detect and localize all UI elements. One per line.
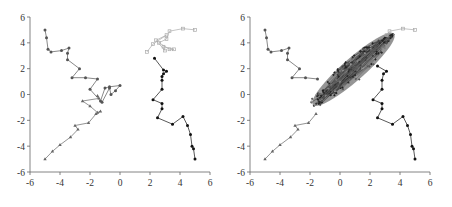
data-point xyxy=(376,116,379,119)
data-point xyxy=(267,48,270,51)
data-point xyxy=(161,107,164,110)
y-tick-label: 6 xyxy=(20,13,25,23)
y-tick-label: 4 xyxy=(240,38,245,48)
x-tick-label: 6 xyxy=(428,178,433,188)
x-tick-label: -2 xyxy=(306,178,314,188)
data-point xyxy=(162,72,165,75)
data-point xyxy=(119,84,122,87)
data-point xyxy=(78,67,81,70)
data-point xyxy=(96,78,99,81)
x-tick-label: -4 xyxy=(276,178,284,188)
data-point xyxy=(298,67,301,70)
data-point xyxy=(152,98,155,101)
y-tick-label: -2 xyxy=(237,116,245,126)
data-point xyxy=(381,102,384,105)
data-point xyxy=(288,47,291,50)
data-point xyxy=(161,88,164,91)
y-tick-label: 0 xyxy=(20,90,25,100)
data-point xyxy=(264,28,267,31)
data-point xyxy=(278,143,281,146)
y-tick-label: -2 xyxy=(17,116,25,126)
data-point xyxy=(71,76,74,79)
trajectory-bottom-right xyxy=(372,65,417,161)
data-point xyxy=(409,133,412,136)
data-point xyxy=(291,76,294,79)
data-point xyxy=(88,104,91,107)
data-point xyxy=(381,79,384,82)
data-point xyxy=(314,112,317,115)
trajectory-top-right xyxy=(146,27,197,53)
data-point xyxy=(60,49,63,52)
data-point xyxy=(110,93,113,96)
data-point xyxy=(99,109,102,112)
data-point xyxy=(194,158,197,161)
data-point xyxy=(382,72,385,75)
data-point xyxy=(101,101,104,104)
right-panel: -6-4-20246-6-4-20246 xyxy=(237,13,433,189)
data-point xyxy=(192,147,195,150)
data-point xyxy=(376,65,379,68)
dense-trajectory-cloud xyxy=(305,25,402,114)
data-point xyxy=(316,78,319,81)
data-point xyxy=(161,75,164,78)
data-point xyxy=(104,87,107,90)
data-point xyxy=(162,68,165,71)
data-point xyxy=(45,36,48,39)
x-tick-label: 4 xyxy=(178,178,183,188)
data-point xyxy=(411,145,414,148)
y-tick-label: -4 xyxy=(237,142,245,152)
y-tick-label: 2 xyxy=(240,64,245,74)
data-point xyxy=(84,76,87,79)
data-point xyxy=(385,70,388,73)
left-panel: -6-4-20246-6-4-20246 xyxy=(17,13,213,189)
y-tick-label: 4 xyxy=(20,38,25,48)
data-point xyxy=(50,50,53,53)
data-point xyxy=(381,107,384,110)
data-point xyxy=(182,115,185,118)
trajectory-bottom-right xyxy=(152,57,197,161)
data-point xyxy=(186,124,189,127)
data-point xyxy=(47,48,50,51)
x-tick-label: -6 xyxy=(246,178,254,188)
data-point xyxy=(402,115,405,118)
x-tick-label: 0 xyxy=(338,178,343,188)
y-tick-label: -6 xyxy=(237,168,245,178)
y-tick-label: -4 xyxy=(17,142,25,152)
data-point xyxy=(286,58,289,61)
data-point xyxy=(66,52,69,55)
x-tick-label: 0 xyxy=(118,178,123,188)
data-point xyxy=(156,116,159,119)
data-point xyxy=(58,143,61,146)
y-tick-label: 0 xyxy=(240,90,245,100)
data-point xyxy=(153,57,156,60)
data-point xyxy=(89,88,92,91)
data-point xyxy=(412,147,415,150)
data-point xyxy=(265,36,268,39)
data-point xyxy=(372,98,375,101)
data-point xyxy=(381,88,384,91)
x-tick-label: 2 xyxy=(368,178,373,188)
data-point xyxy=(44,28,47,31)
y-tick-label: 2 xyxy=(20,64,25,74)
data-point xyxy=(286,52,289,55)
data-point xyxy=(189,133,192,136)
data-point xyxy=(406,124,409,127)
data-point xyxy=(165,70,168,73)
x-tick-label: 6 xyxy=(208,178,213,188)
y-tick-label: 6 xyxy=(240,13,245,23)
x-tick-label: 4 xyxy=(398,178,403,188)
x-tick-label: -6 xyxy=(26,178,34,188)
figure: -6-4-20246-6-4-20246 -6-4-20246-6-4-2024… xyxy=(0,0,452,207)
x-tick-label: -2 xyxy=(86,178,94,188)
data-point xyxy=(161,79,164,82)
x-tick-label: -4 xyxy=(56,178,64,188)
trajectory-top-left xyxy=(264,28,320,80)
data-point xyxy=(96,94,99,97)
data-point xyxy=(191,145,194,148)
data-point xyxy=(114,89,117,92)
data-point xyxy=(280,49,283,52)
data-point xyxy=(108,87,111,90)
data-point xyxy=(161,102,164,105)
trajectory-bottom-left xyxy=(263,112,317,160)
data-point xyxy=(171,123,174,126)
